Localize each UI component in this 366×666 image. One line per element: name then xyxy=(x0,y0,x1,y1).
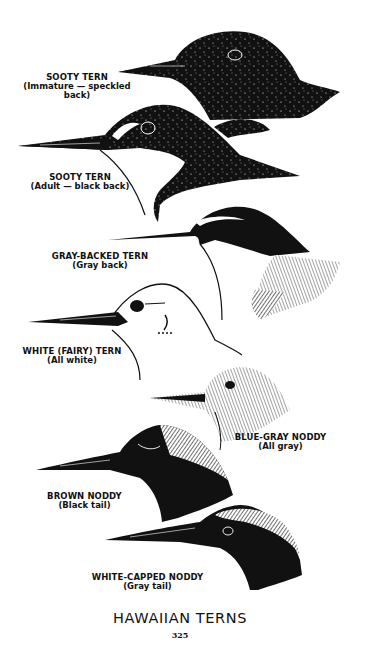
bird-note: (Immature — speckled back) xyxy=(12,82,142,100)
caption-sooty-tern-adult: SOOTY TERN (Adult — black back) xyxy=(25,173,135,191)
sooty-tern-adult-head xyxy=(18,105,300,222)
caption-brown-noddy: BROWN NODDY (Black tail) xyxy=(42,492,127,510)
bird-note: (All gray) xyxy=(228,442,333,451)
plate-title: HAWAIIAN TERNS xyxy=(10,610,350,626)
white-fairy-tern-head xyxy=(28,284,242,380)
page-number: 325 xyxy=(10,630,350,640)
bird-illustrations xyxy=(0,0,366,666)
bird-note: (Gray back) xyxy=(40,261,160,270)
caption-white-fairy-tern: WHITE (FAIRY) TERN (All white) xyxy=(12,347,132,365)
bird-note: (All white) xyxy=(12,356,132,365)
caption-gray-backed-tern: GRAY-BACKED TERN (Gray back) xyxy=(40,252,160,270)
illustration-plate: SOOTY TERN (Immature — speckled back) SO… xyxy=(0,0,366,666)
caption-white-capped-noddy: WHITE-CAPPED NODDY (Gray tail) xyxy=(85,573,210,591)
bird-note: (Adult — black back) xyxy=(25,182,135,191)
bird-note: (Black tail) xyxy=(42,501,127,510)
caption-blue-gray-noddy: BLUE-GRAY NODDY (All gray) xyxy=(228,433,333,451)
caption-sooty-tern-immature: SOOTY TERN (Immature — speckled back) xyxy=(12,73,142,100)
bird-note: (Gray tail) xyxy=(85,582,210,591)
